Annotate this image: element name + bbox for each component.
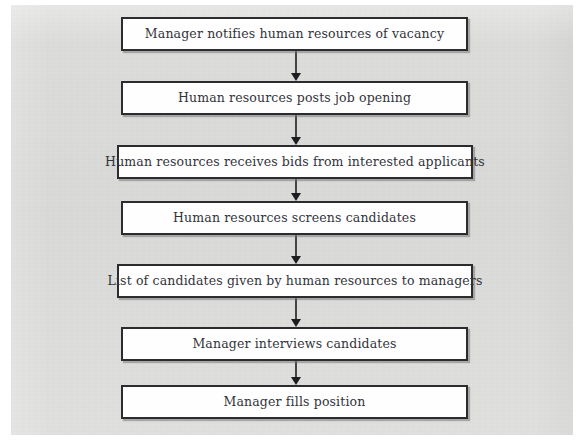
flow-connector-arrow [289, 51, 303, 81]
flow-node-label: List of candidates given by human resour… [107, 274, 482, 288]
flow-node-label: Manager notifies human resources of vaca… [145, 27, 444, 41]
flow-connector-arrow [289, 235, 303, 264]
flow-node-n3[interactable]: Human resources receives bids from inter… [117, 145, 473, 179]
flow-node-n7[interactable]: Manager fills position [121, 385, 468, 419]
flow-node-n6[interactable]: Manager interviews candidates [121, 327, 468, 361]
flowchart: Manager notifies human resources of vaca… [11, 5, 573, 435]
flow-connector-arrow [289, 115, 303, 145]
flow-node-n1[interactable]: Manager notifies human resources of vaca… [121, 17, 468, 51]
flow-connector-arrow [289, 361, 303, 385]
flow-connector-arrow [289, 179, 303, 201]
flow-node-n5[interactable]: List of candidates given by human resour… [117, 264, 473, 298]
scanned-page: Manager notifies human resources of vaca… [11, 5, 573, 435]
flow-node-label: Human resources receives bids from inter… [105, 155, 485, 169]
flow-node-label: Manager fills position [224, 395, 366, 409]
diagram-canvas: Manager notifies human resources of vaca… [0, 0, 584, 442]
flow-connector-arrow [289, 298, 303, 327]
flow-node-label: Human resources posts job opening [178, 91, 411, 105]
flow-node-label: Manager interviews candidates [192, 337, 396, 351]
flow-node-n4[interactable]: Human resources screens candidates [121, 201, 468, 235]
flow-node-n2[interactable]: Human resources posts job opening [121, 81, 468, 115]
flow-node-label: Human resources screens candidates [173, 211, 416, 225]
